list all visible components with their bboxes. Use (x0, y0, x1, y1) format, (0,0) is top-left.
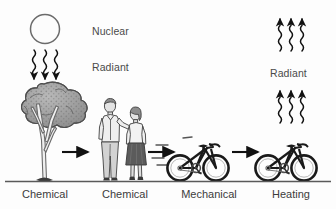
bicycle-moving-icon (152, 137, 229, 181)
label-nuclear: Nuclear (92, 25, 129, 37)
stage-label-mechanical: Mechanical (170, 188, 248, 201)
energy-flow-diagram: Nuclear Radiant Radiant Chemical Chemica… (0, 0, 336, 209)
stage-label-heating: Heating (252, 188, 330, 201)
stage-label-chemical-people: Chemical (86, 188, 164, 201)
radiant-arrows-down-icon (33, 50, 58, 79)
label-radiant-left: Radiant (92, 61, 129, 73)
people-icon (99, 98, 146, 180)
radiant-arrows-up-icon (279, 19, 304, 51)
diagram-canvas (0, 0, 336, 209)
label-radiant-right: Radiant (270, 67, 307, 79)
radiant-arrows-up-icon (279, 91, 304, 123)
stage-label-chemical-tree: Chemical (6, 188, 84, 201)
bicycle-stopped-icon (255, 144, 316, 181)
sun-icon (31, 15, 60, 44)
tree-icon (22, 82, 88, 181)
